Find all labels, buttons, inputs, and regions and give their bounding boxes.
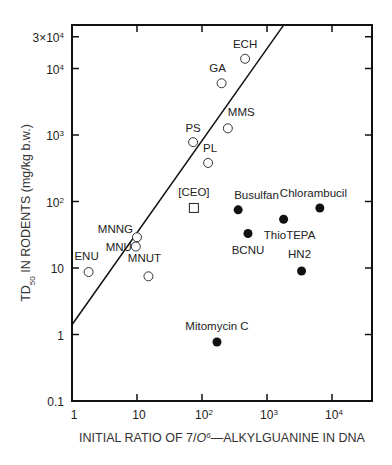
point-label: MMS [228, 106, 255, 118]
y-axis-label: TD50 IN RODENTS (mg/kg b.w.) [19, 124, 37, 302]
svg-text:1: 1 [71, 408, 78, 422]
regression-line [72, 25, 284, 325]
point-label: ENU [74, 250, 98, 262]
svg-text:3×104: 3×104 [33, 30, 65, 45]
point-label: Busulfan [234, 189, 279, 201]
svg-text:102: 102 [195, 408, 213, 423]
svg-text:103: 103 [260, 408, 278, 423]
svg-text:10: 10 [51, 262, 65, 276]
data-point: BCNU [232, 229, 265, 256]
data-points: ENUMNUMNNGMNUTPSPLMMSGAECH[CEO]BusulfanB… [74, 38, 346, 347]
point-label: ThioTEPA [264, 229, 316, 241]
svg-text:10: 10 [132, 408, 146, 422]
point-label: ECH [233, 38, 257, 50]
scatter-chart: 110102103104 0.11101021031043×104 ENUMNU… [0, 0, 392, 465]
point-label: MNNG [98, 223, 133, 235]
data-point: Mitomycin C [185, 320, 248, 347]
point-label: HN2 [288, 248, 311, 260]
data-point: PS [185, 122, 201, 147]
data-point: ENU [74, 250, 98, 277]
data-point: ECH [233, 38, 257, 64]
point-label: GA [209, 62, 226, 74]
svg-text:0.1: 0.1 [47, 395, 64, 409]
point-label: PL [203, 142, 218, 154]
data-point: MNNG [98, 223, 142, 242]
point-label: MNUT [128, 252, 161, 264]
data-point: ThioTEPA [264, 215, 316, 242]
data-point: [CEO] [178, 186, 209, 213]
data-point: PL [203, 142, 218, 168]
y-axis-ticks: 0.11101021031043×104 [33, 30, 372, 409]
point-label: MNU [106, 241, 132, 253]
data-point: MNU [106, 241, 141, 253]
svg-text:1: 1 [57, 329, 64, 343]
data-point: MNUT [128, 252, 161, 281]
point-label: Chlorambucil [280, 187, 347, 199]
data-point: Chlorambucil [280, 187, 347, 213]
point-label: Mitomycin C [185, 320, 248, 332]
svg-text:103: 103 [46, 129, 64, 144]
point-label: PS [185, 122, 201, 134]
svg-text:104: 104 [46, 62, 64, 77]
data-point: HN2 [288, 248, 311, 276]
svg-text:104: 104 [325, 408, 343, 423]
point-label: [CEO] [178, 186, 209, 198]
x-axis-label: INITIAL RATIO OF 7/O6—ALKYLGUANINE IN DN… [79, 431, 365, 446]
svg-text:102: 102 [46, 195, 64, 210]
data-point: GA [209, 62, 226, 88]
point-label: BCNU [232, 244, 265, 256]
data-point: MMS [223, 106, 255, 133]
data-point: Busulfan [234, 189, 279, 215]
